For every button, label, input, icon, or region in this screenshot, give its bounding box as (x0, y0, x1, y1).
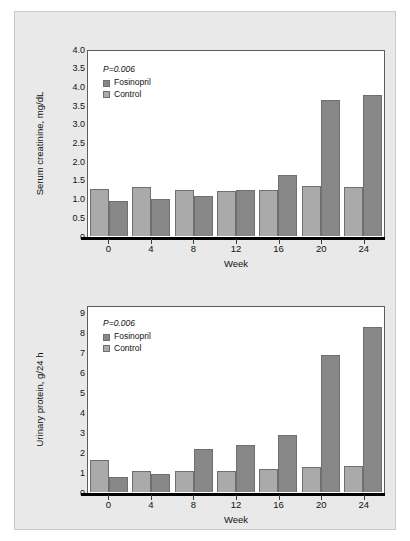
x-tick-label: 4 (130, 244, 173, 254)
x-tick-mark (108, 495, 109, 500)
bar-fosinopril-week-4 (151, 474, 170, 492)
x-tick-label: 0 (87, 500, 130, 510)
x-tick-group-20: 20 (300, 500, 343, 510)
x-axis-line-creatinine (81, 237, 385, 240)
bar-control-week-24 (344, 466, 363, 492)
legend-label-fosinopril: Fosinopril (114, 77, 151, 88)
bar-control-week-0 (90, 189, 109, 236)
bar-fosinopril-week-20 (321, 355, 340, 492)
bar-control-week-20 (302, 186, 321, 236)
x-tick-group-16: 16 (257, 500, 300, 510)
legend-item-control-protein: Control (103, 343, 151, 354)
x-tick-group-20: 20 (300, 244, 343, 254)
bar-fosinopril-week-0 (109, 201, 128, 236)
y-tick-label: 1 (80, 469, 85, 478)
bar-fosinopril-week-16 (278, 175, 297, 236)
x-tick-group-4: 4 (130, 500, 173, 510)
x-tick-mark (193, 495, 194, 500)
bar-control-week-0 (90, 460, 109, 492)
bar-control-week-8 (175, 471, 194, 492)
x-tick-mark (151, 495, 152, 500)
y-tick-label: 2.0 (72, 158, 85, 167)
y-tick-label: 2 (80, 449, 85, 458)
bar-control-week-4 (132, 471, 151, 492)
y-tick-label: 0.5 (72, 214, 85, 223)
legend-item-fosinopril-creatinine: Fosinopril (103, 77, 151, 88)
legend-label-fosinopril: Fosinopril (114, 331, 151, 342)
bar-control-week-8 (175, 190, 194, 236)
y-tick-label: 1.0 (72, 195, 85, 204)
x-tick-mark (279, 495, 280, 500)
bar-control-week-12 (217, 191, 236, 236)
y-tick-label: 4.0 (72, 46, 85, 55)
bar-group-week-16 (257, 307, 299, 492)
bar-group-week-16 (257, 51, 299, 236)
x-tick-label: 20 (300, 500, 343, 510)
x-tick-group-8: 8 (172, 500, 215, 510)
y-tick-label: 3.5 (72, 102, 85, 111)
x-tick-label: 4 (130, 500, 173, 510)
x-tick-label: 16 (257, 500, 300, 510)
y-tick-label: 3.5 (72, 64, 85, 73)
legend-swatch-fosinopril-icon (103, 334, 110, 341)
bar-fosinopril-week-8 (194, 449, 213, 492)
x-tick-group-0: 0 (87, 244, 130, 254)
x-tick-label: 20 (300, 244, 343, 254)
y-tick-label: 9 (80, 309, 85, 318)
x-tick-group-12: 12 (215, 244, 258, 254)
x-tick-mark (108, 239, 109, 244)
x-tick-mark (279, 239, 280, 244)
legend-item-control-creatinine: Control (103, 89, 151, 100)
x-tick-mark (364, 495, 365, 500)
legend-label-control: Control (114, 343, 141, 354)
y-tick-label: 3.0 (72, 120, 85, 129)
y-tick-label: 4 (80, 409, 85, 418)
y-axis-creatinine: 4.03.54.03.53.02.52.01.51.00.50 (59, 50, 60, 240)
bar-control-week-24 (344, 187, 363, 236)
bar-group-week-12 (215, 51, 257, 236)
x-tick-group-24: 24 (342, 244, 385, 254)
p-value-label-protein: P=0.006 (103, 318, 151, 329)
y-tick-label: 3 (80, 429, 85, 438)
bar-control-week-16 (259, 190, 278, 236)
y-axis-protein: 9876543210 (59, 306, 60, 496)
x-tick-mark (236, 239, 237, 244)
chart-urinary-protein: Urinary protein, g/24 h 9876543210 P=0.0… (15, 288, 397, 524)
legend-swatch-control-icon (103, 345, 110, 352)
y-tick-label: 7 (80, 349, 85, 358)
x-axis-title-creatinine: Week (87, 258, 385, 269)
chart-serum-creatinine: Serum creatinine, mg/dL 4.03.54.03.53.02… (15, 28, 397, 270)
bar-group-week-8 (173, 51, 215, 236)
x-tick-group-0: 0 (87, 500, 130, 510)
x-tick-group-16: 16 (257, 244, 300, 254)
y-tick-label: 1.5 (72, 176, 85, 185)
bar-fosinopril-week-8 (194, 196, 213, 236)
bar-fosinopril-week-24 (363, 327, 382, 493)
legend-label-control: Control (114, 89, 141, 100)
x-tick-mark (151, 239, 152, 244)
bar-group-week-24 (342, 307, 384, 492)
bar-fosinopril-week-16 (278, 435, 297, 492)
x-tick-group-12: 12 (215, 500, 258, 510)
p-value-label-creatinine: P=0.006 (103, 64, 151, 75)
bar-group-week-20 (299, 51, 341, 236)
figure-panel: Serum creatinine, mg/dL 4.03.54.03.53.02… (14, 11, 396, 530)
bar-fosinopril-week-0 (109, 477, 128, 492)
bar-fosinopril-week-4 (151, 199, 170, 236)
bar-control-week-12 (217, 471, 236, 492)
x-tick-group-24: 24 (342, 500, 385, 510)
bar-fosinopril-week-12 (236, 190, 255, 236)
y-tick-label: 8 (80, 329, 85, 338)
legend-swatch-control-icon (103, 91, 110, 98)
legend-item-fosinopril-protein: Fosinopril (103, 331, 151, 342)
bar-fosinopril-week-12 (236, 445, 255, 492)
x-tick-mark (321, 495, 322, 500)
bar-group-week-24 (342, 51, 384, 236)
x-tick-label: 24 (342, 244, 385, 254)
legend-creatinine: P=0.006 Fosinopril Control (103, 64, 151, 100)
x-axis-protein: 04812162024 (87, 500, 385, 510)
y-tick-label: 6 (80, 369, 85, 378)
x-axis-line-protein (81, 493, 385, 496)
y-axis-title-creatinine: Serum creatinine, mg/dL (34, 69, 45, 219)
bar-fosinopril-week-24 (363, 95, 382, 236)
